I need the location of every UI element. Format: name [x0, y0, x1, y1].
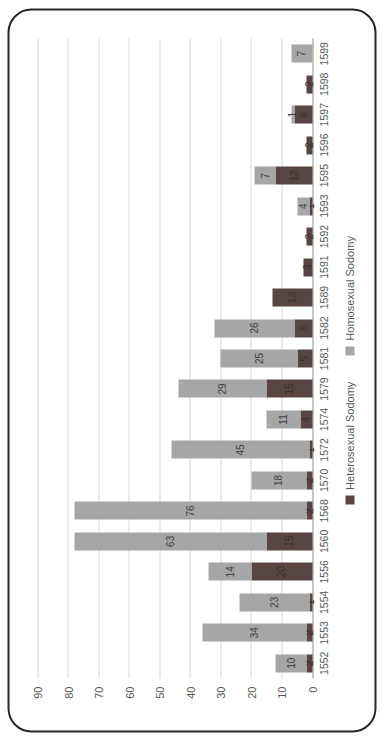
category-axis-label: 1553	[318, 618, 330, 648]
data-label: 12	[289, 161, 299, 191]
value-axis-label: 30	[216, 687, 227, 729]
data-label: 2	[304, 130, 314, 160]
data-label: 2	[304, 69, 314, 99]
value-axis-label: 20	[246, 687, 257, 729]
data-label: 63	[165, 526, 175, 556]
data-label: 25	[254, 344, 264, 374]
category-axis-label: 1596	[318, 130, 330, 160]
category-axis-label: 1589	[318, 282, 330, 312]
data-label: 1	[288, 100, 298, 130]
category-axis-label: 1574	[318, 404, 330, 434]
plot-area: 2102341232014156327621814541115295256261…	[38, 39, 314, 679]
data-label: 6	[298, 313, 308, 343]
data-label: 15	[285, 526, 295, 556]
gridline	[68, 39, 69, 679]
value-axis-label: 0	[308, 687, 319, 729]
value-axis-label: 40	[185, 687, 196, 729]
category-axis-label: 1592	[318, 221, 330, 251]
category-axis-label: 1582	[318, 313, 330, 343]
data-label: 23	[269, 587, 279, 617]
data-label: 3	[303, 252, 313, 282]
category-axis-label: 1598	[318, 69, 330, 99]
category-axis-label: 1593	[318, 191, 330, 221]
legend-marker-heterosexual-icon	[345, 496, 354, 505]
legend: Heterosexual Sodomy Homosexual Sodomy	[344, 11, 356, 731]
data-label: 10	[286, 648, 296, 678]
gridline	[98, 39, 99, 679]
data-label: 5	[300, 344, 310, 374]
category-axis-label: 1560	[318, 526, 330, 556]
data-label: 13	[288, 283, 298, 313]
data-label: 15	[285, 374, 295, 404]
value-axis-label: 50	[155, 687, 166, 729]
category-axis-label: 1597	[318, 99, 330, 129]
value-axis-label: 10	[277, 687, 288, 729]
data-label: 2	[304, 222, 314, 252]
data-label: 29	[217, 374, 227, 404]
value-axis-label: 80	[63, 687, 74, 729]
gridline	[37, 39, 38, 679]
value-axis-label: 70	[94, 687, 105, 729]
chart-frame: 2102341232014156327621814541115295256261…	[8, 9, 377, 733]
category-axis-label: 1556	[318, 557, 330, 587]
legend-label-heterosexual: Heterosexual Sodomy	[344, 382, 356, 490]
data-label: 11	[278, 404, 288, 434]
data-label: 14	[225, 557, 235, 587]
data-label: 18	[274, 465, 284, 495]
data-label: 20	[277, 557, 287, 587]
category-axis-label: 1599	[318, 39, 330, 69]
category-axis-label: 1552	[318, 648, 330, 678]
legend-item-homosexual: Homosexual Sodomy	[344, 236, 356, 356]
legend-label-homosexual: Homosexual Sodomy	[344, 236, 356, 341]
category-axis-label: 1554	[318, 587, 330, 617]
category-axis-label: 1568	[318, 496, 330, 526]
legend-item-heterosexual: Heterosexual Sodomy	[344, 382, 356, 505]
gridline	[129, 39, 130, 679]
category-axis-label: 1581	[318, 343, 330, 373]
category-axis-label: 1579	[318, 374, 330, 404]
legend-marker-homosexual-icon	[345, 347, 354, 356]
category-axis-label: 1572	[318, 435, 330, 465]
data-label: 6	[298, 100, 308, 130]
category-axis-label: 1591	[318, 252, 330, 282]
category-axis-label: 1595	[318, 160, 330, 190]
data-label: 45	[236, 435, 246, 465]
data-label: 26	[249, 313, 259, 343]
gridline	[190, 39, 191, 679]
value-axis-label: 60	[124, 687, 135, 729]
category-axis-label: 1570	[318, 465, 330, 495]
data-label: 7	[260, 161, 270, 191]
data-label: 7	[297, 39, 307, 69]
data-label: 4	[301, 404, 311, 434]
data-label: 34	[249, 618, 259, 648]
value-axis-label: 90	[33, 687, 44, 729]
data-label: 76	[185, 496, 195, 526]
data-label: 4	[298, 191, 308, 221]
gridline	[159, 39, 160, 679]
